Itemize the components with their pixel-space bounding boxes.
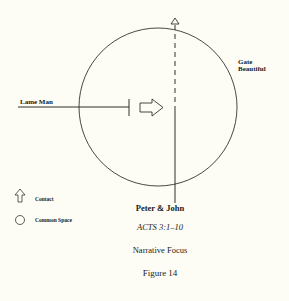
- top-arrowhead-icon: [171, 18, 179, 24]
- lame-man-label: Lame Man: [20, 98, 53, 106]
- diagram-canvas: [0, 0, 289, 301]
- legend-contact-label: Contact: [35, 196, 54, 202]
- figure-subtitle: Narrative Focus: [0, 245, 289, 255]
- scripture-reference: ACTS 3:1–10: [0, 222, 289, 232]
- figure-number: Figure 14: [0, 268, 289, 278]
- contact-arrow-icon: [140, 99, 163, 116]
- gate-label-line2: Beautiful: [238, 65, 266, 73]
- legend-up-arrow-icon: [15, 189, 25, 202]
- peter-john-label: Peter & John: [0, 203, 289, 213]
